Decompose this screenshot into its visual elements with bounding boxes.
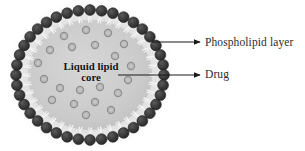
liquid-lipid-core-label: Liquid lipid core <box>44 61 138 84</box>
drug-particle <box>91 41 98 48</box>
drug-particle <box>48 96 55 103</box>
drug-particle <box>104 29 111 36</box>
drug-particle <box>111 52 118 59</box>
drug-particle <box>46 46 53 53</box>
drug-particle <box>82 26 89 33</box>
drug-particle <box>107 106 114 113</box>
drug-particle <box>82 111 89 118</box>
drug-particle <box>91 98 98 105</box>
drug-particle <box>120 40 127 47</box>
core-label-line-2: core <box>44 72 138 83</box>
drug-particle <box>114 89 121 96</box>
drug-particle <box>68 43 75 50</box>
annotation-label-phospholipid-layer: Phospholipid layer <box>205 36 293 48</box>
annotation-label-drug: Drug <box>205 68 229 80</box>
drug-particle <box>56 84 63 91</box>
figure-canvas: Liquid lipid core Phospholipid layer Dru… <box>0 0 305 151</box>
drug-particle <box>70 100 77 107</box>
drug-particle <box>60 32 67 39</box>
drug-particle <box>76 86 83 93</box>
drug-particle <box>34 59 41 66</box>
drug-particle <box>96 83 103 90</box>
